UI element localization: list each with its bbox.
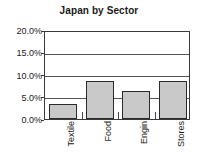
chart-title: Japan by Sector [0, 5, 198, 16]
bar-chart: Japan by Sector 0.0%5.0%10.0%15.0%20.0% … [0, 0, 198, 167]
y-tick-label: 15.0% [2, 48, 42, 58]
bar-food [86, 81, 114, 119]
x-tick-label: Engin [139, 121, 149, 144]
y-axis: 0.0%5.0%10.0%15.0%20.0% [0, 31, 42, 120]
x-tick-mark [118, 112, 119, 119]
x-axis: TextileFoodEnginStores [44, 121, 190, 167]
gridline [45, 54, 189, 55]
x-tick-mark [155, 112, 156, 119]
gridline [45, 76, 189, 77]
x-tick-mark [82, 112, 83, 119]
bar-textile [49, 104, 77, 119]
x-tick-label: Food [103, 121, 113, 142]
y-tick-label: 20.0% [2, 26, 42, 36]
y-tick-label: 5.0% [2, 93, 42, 103]
y-tick-label: 10.0% [2, 71, 42, 81]
plot-area [44, 31, 190, 120]
bar-stores [159, 81, 187, 119]
y-tick-label: 0.0% [2, 115, 42, 125]
x-tick-label: Textile [66, 121, 76, 147]
bar-engin [122, 91, 150, 119]
x-tick-label: Stores [176, 121, 186, 147]
